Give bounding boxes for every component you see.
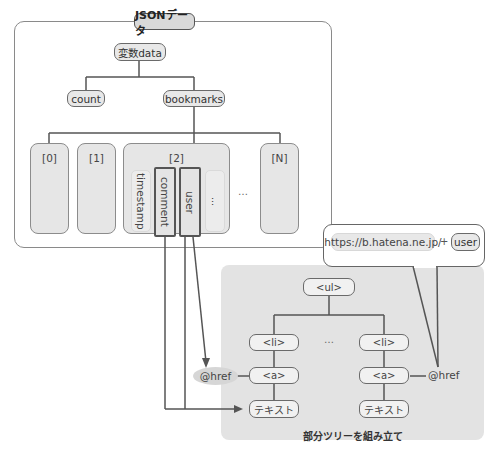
ul-node: <ul> <box>303 278 355 296</box>
root-node-data: 変数data <box>114 43 166 61</box>
array-item-0: [0] <box>30 143 69 234</box>
array-item-1-label: [1] <box>89 152 104 233</box>
href-attr-left: @href <box>193 367 238 385</box>
field-more: … <box>205 170 225 232</box>
a-node-right: <a> <box>359 367 409 384</box>
array-item-n-label: [N] <box>271 152 287 233</box>
array-ellipsis: … <box>238 186 248 197</box>
array-item-1: [1] <box>77 143 116 234</box>
li-ellipsis: … <box>324 334 334 345</box>
field-comment: comment <box>154 167 176 237</box>
subtree-caption: 部分ツリーを組み立て <box>221 428 484 443</box>
li-node-right: <li> <box>359 334 409 351</box>
field-user: user <box>179 167 201 237</box>
array-item-n: [N] <box>260 143 299 234</box>
href-attr-right: @href <box>428 369 459 381</box>
text-node-right: テキスト <box>359 400 409 418</box>
field-timestamp: timestamp <box>131 170 151 232</box>
array-item-0-label: [0] <box>42 152 57 233</box>
a-node-left: <a> <box>249 367 299 384</box>
bookmarks-node: bookmarks <box>163 90 225 107</box>
li-node-left: <li> <box>249 334 299 351</box>
user-variable: user <box>451 233 480 251</box>
text-node-left: テキスト <box>249 400 299 418</box>
count-node: count <box>67 90 105 107</box>
base-url: https://b.hatena.ne.jp/ <box>331 233 435 251</box>
plus-sign: + <box>440 236 448 247</box>
callout-tail-mask <box>414 264 436 268</box>
